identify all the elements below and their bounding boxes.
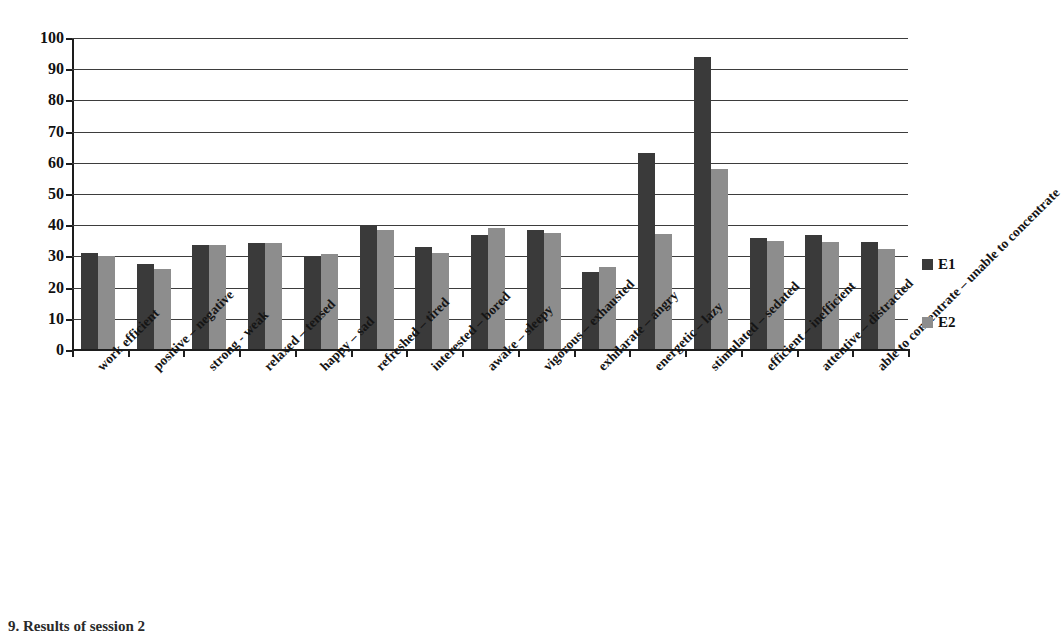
- y-axis-tick-label: 40: [20, 217, 64, 233]
- legend-swatch-icon: [922, 317, 933, 328]
- bar-e2: [377, 230, 394, 350]
- bar-e2: [98, 256, 115, 350]
- y-axis-tick-label: 70: [20, 124, 64, 140]
- bar-group: [248, 38, 282, 350]
- legend-label: E1: [938, 257, 956, 272]
- y-axis-tick-label: 10: [20, 311, 64, 327]
- y-axis-tick-labels: 0102030405060708090100: [12, 38, 64, 350]
- y-axis-tick-label: 90: [20, 61, 64, 77]
- y-axis-tick-label: 20: [20, 280, 64, 296]
- legend-item: E2: [922, 313, 988, 331]
- bar-e2: [544, 233, 561, 350]
- bar-group: [81, 38, 115, 350]
- y-axis-tick-label: 30: [20, 248, 64, 264]
- legend-label: E2: [938, 315, 956, 330]
- bar-e2: [265, 243, 282, 350]
- bar-group: [137, 38, 171, 350]
- legend-swatch-icon: [922, 259, 933, 270]
- legend-item: E1: [922, 255, 988, 273]
- bar-group: [360, 38, 394, 350]
- chart-legend: E1E2: [922, 255, 988, 371]
- y-axis-tick-label: 100: [20, 30, 64, 46]
- figure-caption: 9. Results of session 2: [8, 618, 508, 639]
- y-axis-tick-label: 80: [20, 92, 64, 108]
- y-axis-tick-label: 50: [20, 186, 64, 202]
- x-axis-category-labels: work efficientpositive – negativestrong …: [0, 349, 990, 579]
- bar-e1: [81, 253, 98, 350]
- y-axis-tick-label: 60: [20, 155, 64, 171]
